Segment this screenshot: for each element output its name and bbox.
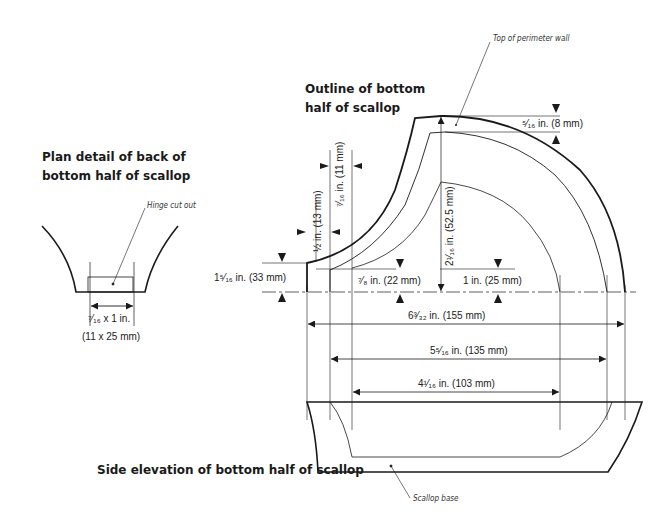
height-total-dim: 2¹⁄₁₆ in. (52.5 mm) (444, 186, 455, 266)
width-inner-dim: 4¹⁄₁₆ in. (103 mm) (418, 378, 495, 389)
half-inch-dim: ½ in. (13 mm) (312, 190, 323, 252)
wall-thickness-dim: ⁵⁄₁₆ in. (8 mm) (522, 118, 583, 129)
side-elevation-title: Side elevation of bottom half of scallop (97, 461, 364, 480)
plan-detail-title-line2: bottom half of scallop (42, 167, 190, 186)
base-callout: Scallop base (413, 493, 459, 503)
outline-title-line1: Outline of bottom (305, 80, 425, 99)
side-elevation-drawing (307, 402, 642, 498)
hinge-size-mm: (11 x 25 mm) (82, 331, 140, 342)
one-inch-dim: 1 in. (25 mm) (463, 275, 522, 286)
plan-detail-drawing (42, 208, 178, 326)
seven-sixteenths-dim: ⁷⁄₁₆ in. (11 mm) (334, 142, 345, 207)
outline-title-line2: half of scallop (305, 99, 425, 118)
width-outer-dim: 6³⁄₃₂ in. (155 mm) (408, 310, 485, 321)
width-middle-dim: 5⁵⁄₁₆ in. (135 mm) (430, 345, 508, 356)
plan-detail-title: Plan detail of back of bottom half of sc… (42, 148, 190, 186)
outline-title: Outline of bottom half of scallop (305, 80, 425, 118)
seven-eighths-dim: ⁷⁄₈ in. (22 mm) (358, 275, 421, 286)
hinge-size-in: ⁷⁄₁₆ x 1 in. (88, 313, 130, 324)
left-edge-height-dim: 1⁵⁄₁₆ in. (33 mm) (214, 272, 286, 283)
plan-detail-title-line1: Plan detail of back of (42, 148, 190, 167)
perimeter-leader (456, 42, 490, 125)
hinge-callout: Hinge cut out (147, 200, 196, 210)
perimeter-callout: Top of perimeter wall (493, 33, 569, 43)
